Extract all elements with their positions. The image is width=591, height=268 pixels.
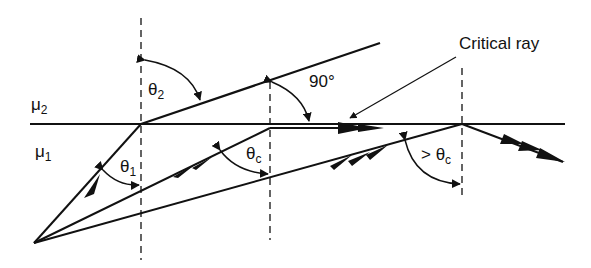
ray-1-refracted — [141, 43, 380, 124]
ray-2-incident — [34, 128, 270, 243]
ray-3-incident — [34, 124, 462, 243]
label-theta2: θ2 — [148, 81, 164, 98]
arrow-icon — [500, 134, 565, 162]
label-mu2: μ2 — [31, 96, 47, 113]
label-thetac: θc — [246, 145, 261, 162]
refraction-diagram: μ2 μ1 θ2 θ1 θc 90° > θc Critical ray — [0, 0, 591, 268]
label-gt-thetac: > θc — [421, 146, 451, 163]
label-critical-ray: Critical ray — [459, 35, 539, 52]
label-theta1: θ1 — [120, 158, 136, 175]
arc-90 — [272, 82, 309, 121]
critical-ray-pointer — [350, 57, 456, 118]
label-90-degrees: 90° — [309, 73, 335, 90]
label-mu1: μ1 — [35, 143, 51, 160]
